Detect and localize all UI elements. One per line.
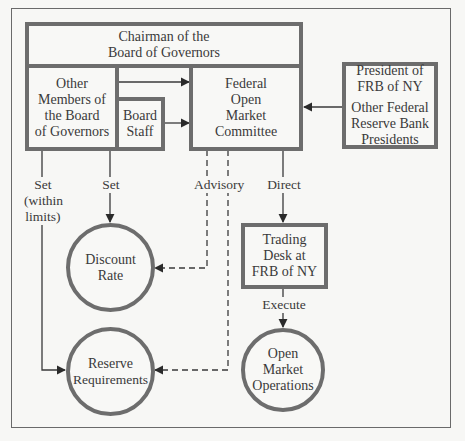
presidents-bottom-line2: Reserve Bank xyxy=(351,116,429,132)
set-within-line3: limits) xyxy=(24,209,62,225)
trading-desk-line1: Trading xyxy=(263,232,307,248)
other-members-line1: Other xyxy=(56,76,88,92)
chairman-label-line2: Board of Governors xyxy=(108,45,220,61)
reserve-requirements-line2: Requirements xyxy=(73,372,148,388)
board-staff-line1: Board xyxy=(123,108,157,124)
fomc-line1: Federal xyxy=(225,76,267,92)
presidents-top-line1: President of xyxy=(356,63,423,79)
other-members-box: Other Members of the Board of Governors xyxy=(25,64,119,151)
board-staff-line2: Staff xyxy=(127,124,154,140)
omo-line3: Operations xyxy=(252,378,313,394)
discount-rate-circle: Discount Rate xyxy=(66,223,155,312)
edge-label-advisory: Advisory xyxy=(194,177,244,193)
omo-line1: Open xyxy=(268,346,298,362)
reserve-requirements-line1: Reserve xyxy=(88,356,133,372)
direct-line: Direct xyxy=(265,177,303,193)
edge-label-direct: Direct xyxy=(265,177,303,193)
board-staff-box: Board Staff xyxy=(115,97,165,151)
fomc-line3: Market xyxy=(226,108,266,124)
other-members-line3: the Board xyxy=(45,108,100,124)
presidents-bottom-line1: Other Federal xyxy=(351,100,428,116)
set-line: Set xyxy=(98,177,124,193)
omo-line2: Market xyxy=(263,362,303,378)
edge-label-set: Set xyxy=(98,177,124,193)
other-members-line4: of Governors xyxy=(35,124,109,140)
trading-desk-line3: FRB of NY xyxy=(252,264,317,280)
chairman-box: Chairman of the Board of Governors xyxy=(25,22,303,68)
edge-label-set-within-limits: Set (within limits) xyxy=(24,177,62,225)
execute-line: Execute xyxy=(260,297,308,313)
fomc-box: Federal Open Market Committee xyxy=(189,64,303,151)
presidents-box: President of FRB of NY Other Federal Res… xyxy=(342,62,438,149)
discount-rate-line1: Discount xyxy=(85,252,136,268)
set-within-line1: Set xyxy=(24,177,62,193)
fomc-line4: Committee xyxy=(215,124,277,140)
reserve-requirements-circle: Reserve Requirements xyxy=(66,327,155,416)
open-market-operations-circle: Open Market Operations xyxy=(241,328,325,412)
trading-desk-box: Trading Desk at FRB of NY xyxy=(241,223,328,289)
presidents-bottom-line3: Presidents xyxy=(361,132,419,148)
other-members-line2: Members of xyxy=(38,92,106,108)
trading-desk-line2: Desk at xyxy=(263,248,305,264)
fomc-line2: Open xyxy=(231,92,261,108)
presidents-top-line2: FRB of NY xyxy=(357,79,422,95)
chairman-label-line1: Chairman of the xyxy=(119,29,210,45)
set-within-line2: (within xyxy=(24,193,62,209)
advisory-line: Advisory xyxy=(194,177,244,193)
edge-label-execute: Execute xyxy=(260,297,308,313)
discount-rate-line2: Rate xyxy=(98,268,124,284)
